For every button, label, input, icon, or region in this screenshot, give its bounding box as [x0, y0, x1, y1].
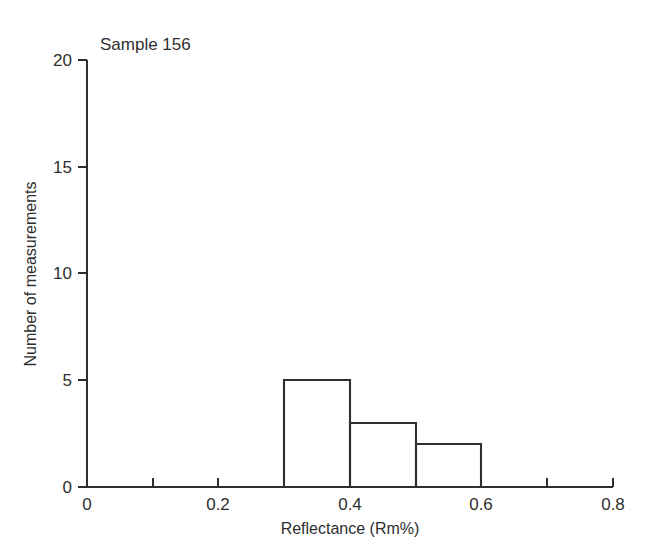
x-tick-label-0p4: 0.4	[338, 495, 362, 514]
x-tick-label-0p8: 0.8	[601, 495, 625, 514]
histogram-bar-2	[350, 423, 416, 487]
histogram-bar-1	[284, 380, 350, 487]
histogram-figure: 0 5 10 15 20 0 0.2 0.4 0.6 0.8 Sample 15…	[0, 0, 655, 556]
y-tick-label-10: 10	[53, 264, 72, 283]
y-tick-label-5: 5	[63, 371, 72, 390]
x-axis-title: Reflectance (Rm%)	[281, 520, 420, 537]
chart-title: Sample 156	[100, 35, 191, 54]
y-tick-label-20: 20	[53, 51, 72, 70]
x-tick-label-0: 0	[82, 495, 91, 514]
x-tick-label-0p6: 0.6	[469, 495, 493, 514]
x-tick-label-0p2: 0.2	[206, 495, 230, 514]
histogram-bar-3	[416, 444, 481, 487]
y-tick-label-0: 0	[63, 478, 72, 497]
chart-canvas: 0 5 10 15 20 0 0.2 0.4 0.6 0.8 Sample 15…	[0, 0, 655, 556]
y-axis-title: Number of measurements	[22, 182, 39, 367]
y-tick-label-15: 15	[53, 158, 72, 177]
